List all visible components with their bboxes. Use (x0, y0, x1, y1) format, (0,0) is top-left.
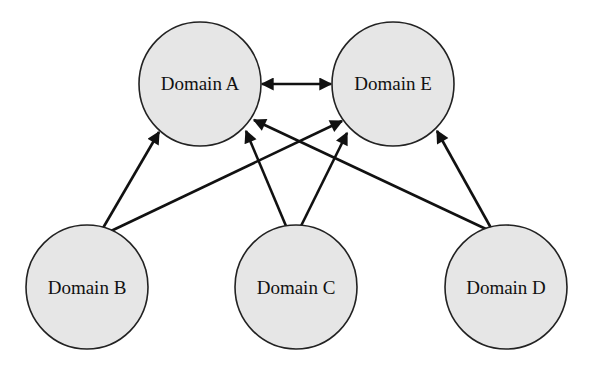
node-domain-a: Domain A (139, 22, 261, 146)
node-label: Domain A (161, 73, 240, 94)
node-label: Domain D (466, 277, 546, 298)
node-label: Domain C (257, 277, 336, 298)
edge-b-to-a (103, 132, 159, 228)
edge-d-to-e (437, 131, 491, 228)
node-domain-d: Domain D (445, 225, 567, 349)
node-domain-e: Domain E (332, 22, 454, 146)
node-domain-c: Domain C (235, 225, 357, 349)
node-label: Domain B (48, 277, 127, 298)
edge-c-to-a (246, 131, 286, 226)
domain-diagram: Domain A Domain E Domain B Domain C Doma… (0, 0, 593, 378)
edge-c-to-e (301, 133, 347, 226)
node-label: Domain E (354, 73, 432, 94)
node-domain-b: Domain B (26, 225, 148, 349)
